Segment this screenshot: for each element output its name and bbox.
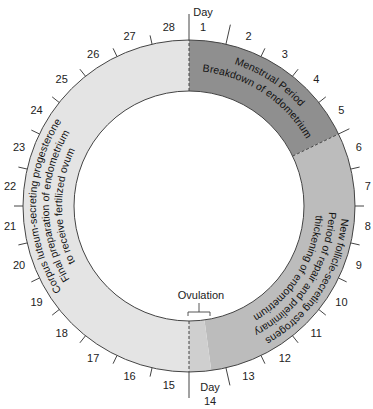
day-number-5: 5 — [338, 104, 344, 116]
day-tick — [18, 243, 27, 245]
ovulation-bracket — [188, 303, 210, 316]
day-tick — [293, 69, 299, 76]
day-number-22: 22 — [4, 180, 16, 192]
day-tick — [31, 130, 39, 134]
day-number-9: 9 — [356, 259, 362, 271]
day-number-2: 2 — [245, 30, 251, 42]
menstrual-cycle-diagram: 2345678910111213151617181920212223242526… — [0, 0, 373, 409]
day-tick — [261, 356, 265, 364]
inner-ring-outline — [74, 91, 304, 321]
day-number-13: 13 — [242, 370, 254, 382]
day-number-6: 6 — [356, 141, 362, 153]
day-tick — [113, 48, 117, 56]
day-number-16: 16 — [123, 370, 135, 382]
day-tick — [319, 97, 326, 103]
day-tick — [18, 167, 27, 169]
day-number-10: 10 — [335, 296, 347, 308]
day-number-26: 26 — [87, 48, 99, 60]
day-tick — [319, 310, 326, 316]
day-tick — [351, 167, 360, 169]
day1-number: 1 — [200, 21, 206, 33]
day-number-23: 23 — [13, 141, 25, 153]
day-tick — [113, 356, 117, 364]
day-tick — [339, 129, 350, 134]
day-number-20: 20 — [13, 259, 25, 271]
day1-word: Day — [193, 6, 213, 18]
day-number-21: 21 — [4, 220, 16, 232]
day-number-28: 28 — [163, 21, 175, 33]
day-number-7: 7 — [365, 180, 371, 192]
day-number-17: 17 — [87, 352, 99, 364]
day-tick — [150, 368, 152, 377]
day-number-4: 4 — [313, 73, 319, 85]
day-tick — [339, 278, 347, 282]
day-tick — [293, 336, 299, 343]
day14-word: Day — [200, 381, 220, 393]
day-number-12: 12 — [279, 352, 291, 364]
ovulation-marker: Ovulation — [178, 289, 224, 316]
day-number-15: 15 — [163, 379, 175, 391]
ovulation-label: Ovulation — [178, 289, 224, 301]
day-number-11: 11 — [311, 327, 322, 339]
day-number-25: 25 — [56, 73, 68, 85]
day-tick — [226, 368, 230, 386]
day-number-27: 27 — [123, 30, 135, 42]
day-tick — [31, 278, 39, 282]
day-number-19: 19 — [30, 296, 42, 308]
day-number-24: 24 — [30, 104, 42, 116]
day14-number: 14 — [204, 395, 216, 407]
day-tick — [261, 48, 265, 56]
day-tick — [52, 97, 59, 103]
day-tick — [351, 243, 360, 245]
day-number-8: 8 — [365, 220, 371, 232]
day-number-3: 3 — [282, 48, 288, 60]
day-tick — [226, 25, 230, 45]
day-tick — [52, 310, 59, 316]
day-tick — [80, 69, 86, 76]
day-tick — [80, 336, 86, 343]
day-tick — [150, 35, 152, 44]
day-number-18: 18 — [56, 327, 68, 339]
